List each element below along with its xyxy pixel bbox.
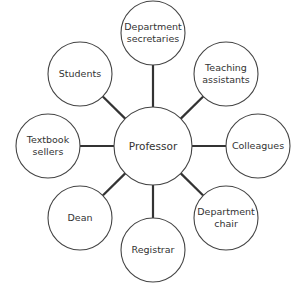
node-registrar: Registrar — [121, 218, 185, 282]
stakeholder-diagram: Professor Department secretaries Teachin… — [0, 0, 307, 300]
node-professor: Professor — [114, 107, 192, 185]
node-department-chair: Department chair — [194, 186, 258, 250]
node-dean: Dean — [48, 186, 112, 250]
node-textbook-sellers: Textbook sellers — [16, 114, 80, 178]
node-colleagues: Colleagues — [226, 114, 290, 178]
node-department-secretaries: Department secretaries — [121, 1, 185, 65]
node-students: Students — [48, 42, 112, 106]
node-teaching-assistants: Teaching assistants — [194, 42, 258, 106]
